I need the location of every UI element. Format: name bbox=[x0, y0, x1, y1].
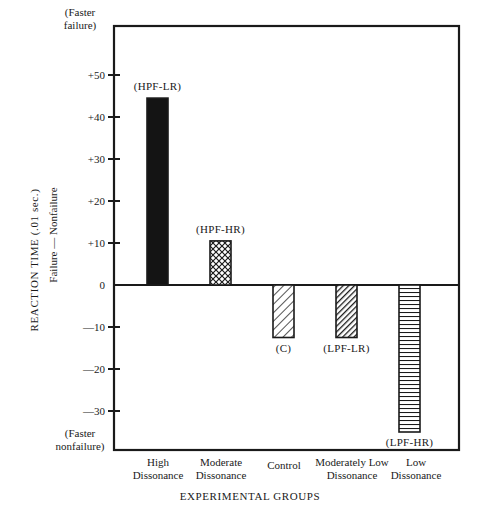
bar-lpf-lr bbox=[336, 285, 357, 338]
bar-c bbox=[273, 285, 294, 338]
y-tick-label: —30 bbox=[82, 405, 106, 417]
y-top-annotation: (Fasterfailure) bbox=[64, 6, 97, 32]
bar-chart: +50+40+30+20+100—10—20—30 (HPF-LR)(HPF-H… bbox=[0, 0, 488, 522]
y-tick-label: +40 bbox=[88, 111, 106, 123]
y-axis-subtitle: Failure — Nonfailure bbox=[47, 187, 59, 282]
x-category-label: Moderately LowDissonance bbox=[315, 456, 389, 481]
y-tick-label: 0 bbox=[100, 279, 106, 291]
bar-hpf-lr bbox=[147, 98, 168, 285]
bar-label: (LPF-LR) bbox=[323, 342, 369, 355]
bar-label: (HPF-LR) bbox=[134, 80, 182, 93]
bar-label: (C) bbox=[276, 342, 292, 355]
bar-label: (HPF-HR) bbox=[196, 223, 245, 236]
bar-label: (LPF-HR) bbox=[386, 436, 434, 449]
y-bottom-annotation: (Fasternonfailure) bbox=[56, 427, 105, 453]
bar-lpf-hr bbox=[399, 285, 420, 432]
y-tick-label: +20 bbox=[88, 195, 106, 207]
y-tick-label: +50 bbox=[88, 69, 106, 81]
y-tick-label: —20 bbox=[82, 363, 106, 375]
y-tick-label: —10 bbox=[82, 321, 106, 333]
y-tick-label: +10 bbox=[88, 237, 106, 249]
x-category-label: LowDissonance bbox=[391, 456, 442, 481]
x-axis-category-labels: HighDissonanceModerateDissonanceControlM… bbox=[133, 456, 442, 481]
x-category-label: HighDissonance bbox=[133, 456, 184, 481]
bars: (HPF-LR)(HPF-HR)(C)(LPF-LR)(LPF-HR) bbox=[134, 80, 434, 449]
y-axis-title: REACTION TIME (.01 sec.) bbox=[28, 189, 41, 332]
y-tick-label: +30 bbox=[88, 153, 106, 165]
bar-hpf-hr bbox=[210, 241, 231, 285]
x-category-label: Control bbox=[267, 459, 301, 471]
x-category-label: ModerateDissonance bbox=[196, 456, 247, 481]
x-axis-title: EXPERIMENTAL GROUPS bbox=[180, 490, 321, 502]
